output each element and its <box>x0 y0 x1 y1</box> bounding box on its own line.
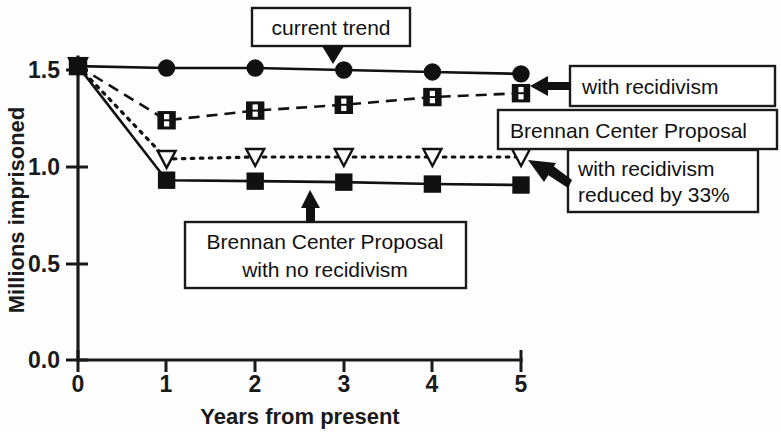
annotation-with-recidivism-arrow <box>530 76 570 96</box>
series-1-marker-1 <box>159 112 175 128</box>
x-tick-label-3: 3 <box>338 371 351 397</box>
annotation-with-recidivism-reduced: with recidivism reduced by 33% <box>528 150 758 212</box>
series-0 <box>71 59 529 82</box>
annotation-with-recidivism-label: with recidivism <box>581 75 719 98</box>
annotation-current-trend: current trend <box>252 8 410 64</box>
series-0-line <box>78 66 521 74</box>
annotation-brennan-no-recidivism-line1: Brennan Center Proposal <box>207 230 444 253</box>
chart-container: 1.5 1.0 0.5 0.0 0 1 2 3 4 5 Millions imp… <box>0 0 781 432</box>
y-tick-labels: 1.5 1.0 0.5 0.0 <box>28 57 60 373</box>
series-3-marker-0 <box>71 59 86 74</box>
series-3-marker-2 <box>248 174 263 189</box>
x-tick-label-0: 0 <box>72 371 85 397</box>
y-tick-label-0: 0.0 <box>28 347 60 373</box>
x-tick-label-1: 1 <box>160 371 173 397</box>
series-3-marker-1 <box>159 173 174 188</box>
x-tick-label-2: 2 <box>249 371 262 397</box>
series-0-marker-3 <box>336 63 351 78</box>
y-axis-title: Millions imprisoned <box>4 107 29 314</box>
x-tick-labels: 0 1 2 3 4 5 <box>72 371 528 397</box>
series-3-line <box>78 66 521 185</box>
series-3 <box>71 59 529 193</box>
annotation-current-trend-label: current trend <box>271 16 390 39</box>
annotation-brennan-center-proposal-label: Brennan Center Proposal <box>510 119 747 142</box>
annotation-with-recidivism-reduced-line1: with recidivism <box>577 157 715 180</box>
series-3-marker-3 <box>336 175 351 190</box>
series-3-marker-5 <box>514 178 529 193</box>
series-0-marker-4 <box>425 64 440 79</box>
y-tick-label-1: 0.5 <box>28 251 60 277</box>
annotation-current-trend-arrow <box>322 46 344 64</box>
series-1-marker-3 <box>336 97 352 113</box>
series-2-line <box>78 66 521 159</box>
imprisonment-projection-chart: 1.5 1.0 0.5 0.0 0 1 2 3 4 5 Millions imp… <box>0 0 781 432</box>
series-0-marker-1 <box>159 61 174 76</box>
y-tick-label-3: 1.5 <box>28 57 60 83</box>
x-tick-label-5: 5 <box>515 371 528 397</box>
annotation-brennan-no-recidivism: Brennan Center Proposal with no recidivi… <box>185 190 466 288</box>
annotation-brennan-no-recidivism-line2: with no recidivism <box>241 258 408 281</box>
annotation-with-recidivism-reduced-line2: reduced by 33% <box>578 183 730 206</box>
data-series-layer <box>69 58 530 192</box>
x-tick-label-4: 4 <box>426 371 439 397</box>
y-tick-label-2: 1.0 <box>28 154 60 180</box>
series-1-marker-4 <box>424 89 440 105</box>
annotation-with-recidivism-reduced-arrow <box>528 160 572 188</box>
series-0-marker-2 <box>248 61 263 76</box>
series-1-line <box>78 66 521 120</box>
x-axis-title: Years from present <box>200 404 400 429</box>
annotation-with-recidivism: with recidivism <box>530 66 775 106</box>
series-0-marker-5 <box>514 66 529 81</box>
series-1-marker-5 <box>513 85 529 101</box>
series-2 <box>69 58 530 168</box>
series-3-marker-4 <box>425 177 440 192</box>
series-1-marker-2 <box>247 103 263 119</box>
annotation-brennan-no-recidivism-arrow <box>301 190 320 223</box>
annotation-brennan-center-proposal: Brennan Center Proposal <box>498 110 777 149</box>
axes-group <box>66 57 521 372</box>
